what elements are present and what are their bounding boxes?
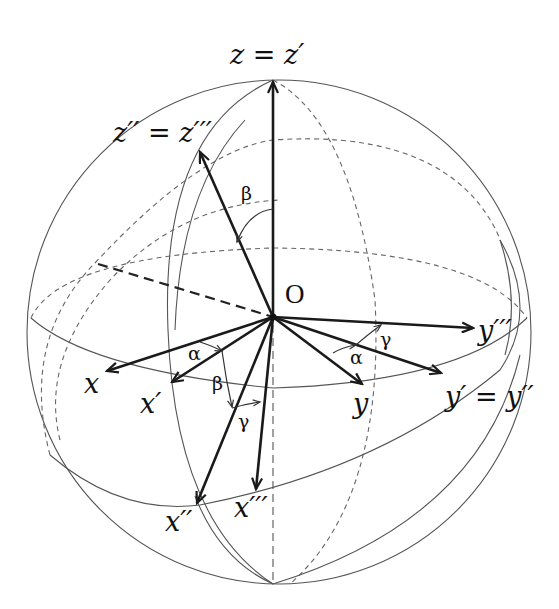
euler-angles-diagram: z = z′ z′′ = z′′′ O x x′ x′′ x′′′ y y′ =… (0, 0, 559, 609)
beta-top-arc (237, 209, 273, 242)
label-origin: O (285, 279, 305, 309)
alpha-left-arc (200, 342, 222, 351)
sphere-outline (27, 80, 531, 584)
origin-point (270, 314, 277, 321)
label-z2-z3: z′′ = z′′′ (112, 117, 212, 148)
label-x2: x′′ (165, 506, 193, 537)
beta-left-arc (222, 351, 232, 407)
label-beta-left: β (212, 372, 223, 394)
label-beta-top: β (241, 182, 252, 204)
tilted-circle-back (41, 139, 500, 455)
x3-axis-arrow (256, 317, 273, 489)
y-axis-arrow (273, 317, 362, 384)
equator-back (31, 248, 527, 318)
equator-front (31, 318, 527, 388)
hidden-axis-dashed (98, 264, 270, 316)
label-alpha-left: α (188, 342, 201, 364)
label-x1: x′ (140, 388, 161, 419)
label-alpha-right: α (350, 346, 363, 368)
label-gamma-right: γ (380, 328, 391, 350)
label-x3: x′′′ (234, 492, 268, 523)
label-gamma-left: γ (238, 410, 249, 432)
label-y: y (352, 388, 369, 419)
label-x: x (84, 368, 99, 399)
z2-axis-arrow (200, 152, 273, 317)
gamma-right-arc (356, 325, 381, 345)
label-y3: y′′′ (477, 315, 512, 346)
label-y1-y2: y′ = y′′ (444, 381, 534, 412)
meridian-back-right (273, 80, 376, 584)
label-z-zprime: z = z′ (229, 39, 304, 70)
